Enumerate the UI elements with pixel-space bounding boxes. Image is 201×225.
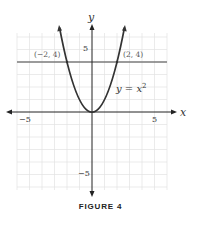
figure-caption: FIGURE 4 xyxy=(0,202,201,211)
y-axis-up-arrow-icon xyxy=(90,24,95,30)
figure-4-chart: y x 5 −5 −5 5 (−2, 4) (2, 4) y = x2 xyxy=(0,0,201,225)
parabola-right-arrow-icon xyxy=(122,25,127,32)
y-tick-label-5: 5 xyxy=(83,44,88,53)
parabola-left-arrow-icon xyxy=(57,25,62,32)
x-axis-left-arrow-icon xyxy=(6,110,12,115)
x-tick-label-5: 5 xyxy=(152,115,157,124)
point-neg2-4 xyxy=(66,61,68,63)
point-2-4 xyxy=(116,61,118,63)
x-tick-label-neg5: −5 xyxy=(19,115,31,124)
y-tick-label-neg5: −5 xyxy=(78,169,90,178)
y-axis-down-arrow-icon xyxy=(90,191,95,197)
x-axis-label: x xyxy=(180,106,187,119)
curve-equation-label: y = x2 xyxy=(115,82,147,94)
x-axis-right-arrow-icon xyxy=(171,110,177,115)
y-axis xyxy=(90,24,95,197)
y-axis-label: y xyxy=(87,11,95,24)
annotation-point-2-4: (2, 4) xyxy=(123,50,143,59)
annotation-point-neg2-4: (−2, 4) xyxy=(34,50,61,59)
